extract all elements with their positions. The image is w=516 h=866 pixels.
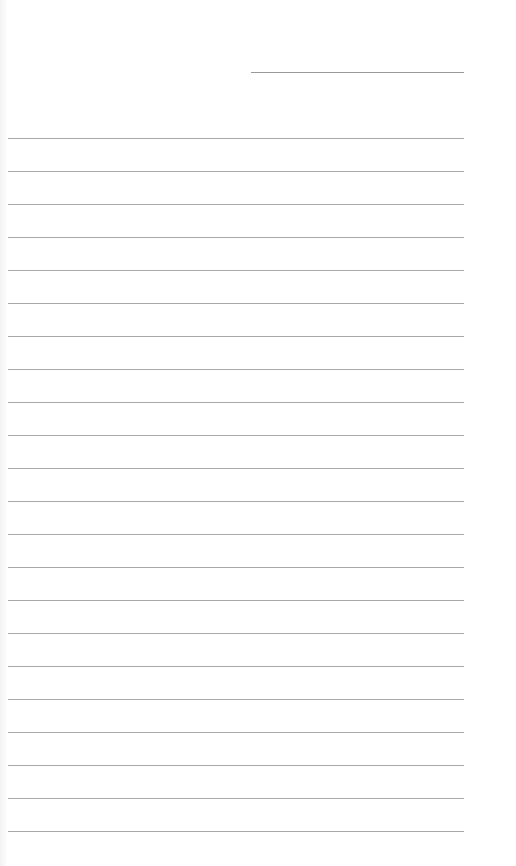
ruled-line <box>8 831 464 832</box>
ruled-line <box>8 534 464 535</box>
page-edge-shadow <box>0 0 8 866</box>
ruled-line <box>8 600 464 601</box>
ruled-line <box>8 699 464 700</box>
ruled-line <box>8 369 464 370</box>
ruled-line <box>8 798 464 799</box>
ruled-line <box>8 336 464 337</box>
ruled-line <box>8 237 464 238</box>
ruled-line <box>8 765 464 766</box>
ruled-line <box>8 138 464 139</box>
ruled-line <box>8 270 464 271</box>
ruled-line <box>8 303 464 304</box>
ruled-line <box>8 435 464 436</box>
name-date-line <box>251 72 464 73</box>
ruled-line <box>8 633 464 634</box>
ruled-line <box>8 468 464 469</box>
ruled-line <box>8 666 464 667</box>
ruled-line <box>8 204 464 205</box>
ruled-line <box>8 402 464 403</box>
ruled-line <box>8 732 464 733</box>
ruled-line <box>8 567 464 568</box>
ruled-line <box>8 171 464 172</box>
ruled-line <box>8 501 464 502</box>
